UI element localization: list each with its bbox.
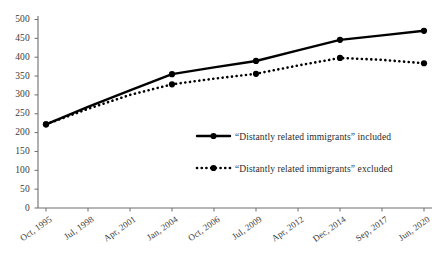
y-axis-tick-label: 350 xyxy=(6,71,30,81)
legend-marker-swatch xyxy=(210,165,216,171)
legend-item-excluded-label: “Distantly related immigrants” excluded xyxy=(235,164,393,174)
y-axis-tick-label: 400 xyxy=(6,52,30,62)
y-axis-tick-label: 450 xyxy=(6,33,30,43)
y-axis-tick-label: 50 xyxy=(6,184,30,194)
y-axis-tick-label: 500 xyxy=(6,14,30,24)
data-point-marker xyxy=(253,58,259,64)
data-point-marker xyxy=(253,71,259,77)
legend-marker-swatch xyxy=(210,133,216,139)
y-axis-tick-label: 300 xyxy=(6,89,30,99)
data-point-marker xyxy=(43,121,49,127)
legend-item-included[interactable]: “Distantly related immigrants” included xyxy=(232,131,391,142)
series-line-excluded xyxy=(46,58,424,124)
line-chart: 500450400350300250200150100500 Oct, 1995… xyxy=(0,0,440,254)
data-point-marker xyxy=(169,71,175,77)
chart-plot-area xyxy=(0,0,440,254)
data-point-marker xyxy=(337,37,343,43)
legend-item-excluded[interactable]: “Distantly related immigrants” excluded xyxy=(232,163,393,174)
data-point-marker xyxy=(421,60,427,66)
y-axis-tick-label: 100 xyxy=(6,165,30,175)
chart-series-group xyxy=(43,28,427,128)
y-axis-tick-label: 250 xyxy=(6,108,30,118)
legend-swatches xyxy=(197,133,230,171)
data-point-marker xyxy=(169,81,175,87)
y-axis-tick-label: 150 xyxy=(6,146,30,156)
data-point-marker xyxy=(337,55,343,61)
y-axis-tick-label: 200 xyxy=(6,127,30,137)
y-axis-tick-label: 0 xyxy=(6,203,30,213)
legend-item-included-label: “Distantly related immigrants” included xyxy=(235,132,391,142)
data-point-marker xyxy=(421,28,427,34)
chart-axes xyxy=(35,16,433,212)
series-line-included xyxy=(46,31,424,124)
